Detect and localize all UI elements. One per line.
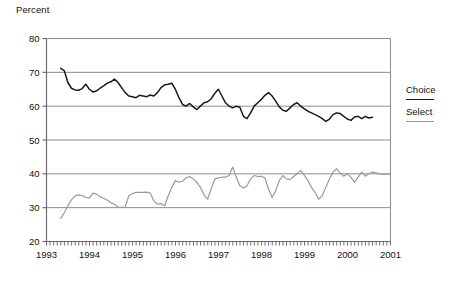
x-tick-label-1998: 1998: [251, 249, 272, 260]
legend-label-choice: Choice: [406, 84, 451, 96]
x-tick-label-1995: 1995: [122, 249, 143, 260]
chart-legend: Choice Select: [406, 84, 451, 128]
line-chart-plot: 2030405060708019931994199519961997199819…: [0, 0, 451, 281]
y-tick-label-40: 40: [29, 168, 40, 179]
y-tick-label-80: 80: [29, 33, 40, 44]
legend-label-select: Select: [406, 106, 451, 118]
y-tick-label-50: 50: [29, 135, 40, 146]
y-tick-label-30: 30: [29, 202, 40, 213]
x-tick-label-2000: 2000: [337, 249, 358, 260]
y-tick-label-20: 20: [29, 236, 40, 247]
series-line-select: [61, 167, 391, 218]
x-tick-label-1997: 1997: [208, 249, 229, 260]
x-tick-label-2001: 2001: [380, 249, 401, 260]
series-line-choice: [61, 68, 373, 121]
x-tick-label-1996: 1996: [165, 249, 186, 260]
chart-container: Percent 20304050607080199319941995199619…: [0, 0, 451, 281]
x-tick-label-1994: 1994: [79, 249, 100, 260]
y-tick-label-70: 70: [29, 67, 40, 78]
legend-entry-select: Select: [406, 106, 451, 122]
y-tick-label-60: 60: [29, 101, 40, 112]
legend-entry-choice: Choice: [406, 84, 451, 100]
x-tick-label-1999: 1999: [294, 249, 315, 260]
legend-swatch-choice: [406, 99, 434, 100]
legend-swatch-select: [406, 121, 434, 122]
x-tick-label-1993: 1993: [36, 249, 57, 260]
